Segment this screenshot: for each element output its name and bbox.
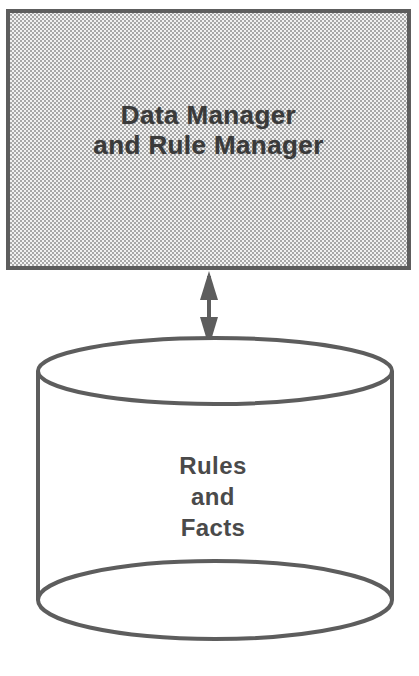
diagram-canvas: Data Manager and Rule Manager Rules and …	[0, 0, 419, 676]
connector-arrowhead-up	[200, 271, 218, 300]
data-store-label: Rules and Facts	[36, 450, 390, 544]
manager-store-connector[interactable]	[200, 271, 218, 347]
cylinder-top-ellipse	[38, 338, 392, 404]
manager-box-label: Data Manager and Rule Manager	[6, 100, 411, 160]
